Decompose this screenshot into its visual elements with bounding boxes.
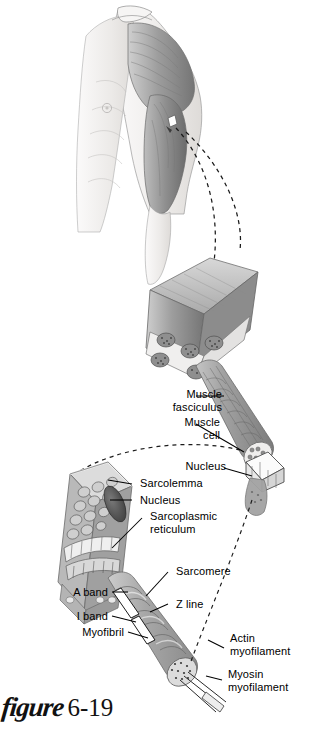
label-actin-myofilament: Actin myofilament bbox=[230, 632, 310, 657]
figure-caption-number: 6-19 bbox=[68, 694, 114, 721]
leader-myosin bbox=[206, 676, 222, 680]
anatomical-illustration bbox=[0, 0, 311, 734]
leader-actin bbox=[208, 640, 224, 648]
torso-illustration bbox=[77, 6, 202, 284]
label-sarcoplasmic-reticulum: Sarcoplasmic reticulum bbox=[150, 510, 242, 535]
leader-sarcomere bbox=[146, 572, 168, 596]
label-myofibril: Myofibril bbox=[40, 626, 124, 639]
label-sarcolemma: Sarcolemma bbox=[140, 477, 232, 490]
label-muscle-fasciculus: Muscle fasciculus bbox=[148, 388, 222, 413]
muscle-fasciculus-block bbox=[146, 258, 258, 379]
label-nucleus-lower: Nucleus bbox=[140, 494, 210, 507]
label-sarcomere: Sarcomere bbox=[176, 565, 256, 578]
label-i-band: I band bbox=[48, 610, 108, 623]
figure-caption-word: figure bbox=[0, 692, 65, 723]
myofibril-cylinder bbox=[108, 572, 226, 712]
label-muscle-cell: Muscle cell bbox=[150, 416, 220, 441]
label-myosin-myofilament: Myosin myofilament bbox=[228, 668, 308, 693]
label-a-band: A band bbox=[48, 586, 108, 599]
label-nucleus-upper: Nucleus bbox=[160, 460, 226, 473]
figure-caption: figure6-19 bbox=[2, 692, 113, 723]
muscle-structure-figure: Muscle fasciculus Muscle cell Nucleus Sa… bbox=[0, 0, 311, 734]
label-z-line: Z line bbox=[176, 598, 238, 611]
